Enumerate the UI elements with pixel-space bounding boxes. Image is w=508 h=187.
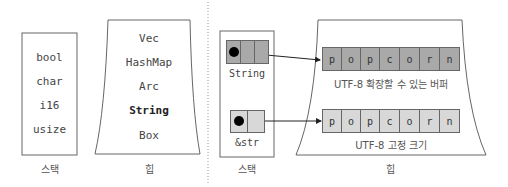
str-pointer-dot bbox=[234, 116, 244, 126]
diagram-shapes bbox=[0, 0, 508, 187]
string-buffer-cell: o bbox=[399, 47, 420, 71]
str-len-cell bbox=[247, 110, 265, 133]
right-heap-label: 힙 bbox=[300, 161, 480, 176]
str-buffer-cell: n bbox=[439, 109, 460, 133]
heap-item-string: String bbox=[100, 104, 198, 117]
str-var-label: &str bbox=[220, 137, 274, 148]
stack-item-i16: i16 bbox=[22, 99, 77, 112]
string-buffer-cell: p bbox=[322, 47, 342, 71]
string-len-cell bbox=[240, 40, 255, 64]
heap-item-box: Box bbox=[100, 129, 198, 142]
string-cap-cell bbox=[254, 40, 269, 64]
stack-item-bool: bool bbox=[22, 51, 77, 64]
str-buffer-cell: o bbox=[341, 109, 361, 133]
str-buffer-cell: p bbox=[322, 109, 342, 133]
string-buffer-cell: r bbox=[419, 47, 440, 71]
left-heap-label: 힙 bbox=[100, 161, 198, 176]
str-buffer-caption: UTF-8 고정 크기 bbox=[322, 137, 460, 152]
left-stack-label: 스택 bbox=[22, 161, 77, 176]
string-buffer-cell: n bbox=[439, 47, 460, 71]
str-buffer-cell: c bbox=[379, 109, 400, 133]
str-buffer-cell: o bbox=[399, 109, 420, 133]
string-buffer-caption: UTF-8 확장할 수 있는 버퍼 bbox=[322, 76, 460, 91]
heap-item-hashmap: HashMap bbox=[100, 56, 198, 69]
string-buffer-cell: c bbox=[379, 47, 400, 71]
heap-item-vec: Vec bbox=[100, 32, 198, 45]
string-buffer-cell: p bbox=[360, 47, 380, 71]
string-pointer-dot bbox=[229, 47, 239, 57]
str-buffer-cell: r bbox=[419, 109, 440, 133]
right-stack-label: 스택 bbox=[220, 161, 274, 176]
string-buffer-cell: o bbox=[341, 47, 361, 71]
string-var-label: String bbox=[220, 68, 274, 79]
str-buffer-cell: p bbox=[360, 109, 380, 133]
stack-item-usize: usize bbox=[22, 123, 77, 136]
heap-item-arc: Arc bbox=[100, 80, 198, 93]
stack-item-char: char bbox=[22, 75, 77, 88]
